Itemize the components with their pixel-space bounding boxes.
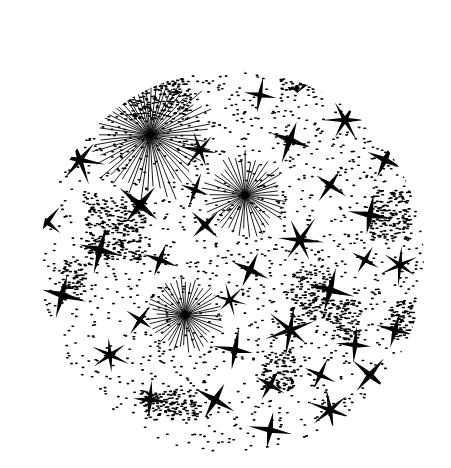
mandala-star-drawing: [0, 0, 451, 468]
